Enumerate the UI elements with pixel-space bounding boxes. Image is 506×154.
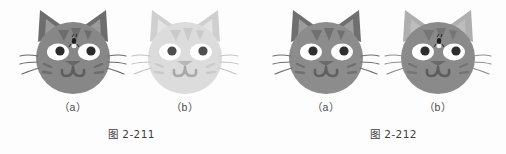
figure-caption-2: 图 2-212 xyxy=(267,126,506,141)
cat-face-illustration-2a xyxy=(271,4,381,98)
cat-face-icon xyxy=(130,4,240,98)
cat-face-illustration-1b xyxy=(130,4,240,98)
sublabel-2b: （b） xyxy=(383,99,493,114)
cat-face-illustration-1a xyxy=(18,4,128,98)
cat-face-icon xyxy=(383,4,493,98)
figure-caption-1: 图 2-211 xyxy=(5,126,258,141)
sublabel-2a: （a） xyxy=(271,99,381,114)
figure-group-2-212: （a） （b） 图 2-212 xyxy=(253,0,506,154)
sublabel-1a: （a） xyxy=(18,99,128,114)
figure-group-2-211: （a） （b） 图 2-211 xyxy=(0,0,253,154)
sublabel-1b: （b） xyxy=(130,99,240,114)
figure-page: （a） （b） 图 2-211 xyxy=(0,0,506,154)
cat-face-icon xyxy=(18,4,128,98)
cat-face-icon xyxy=(271,4,381,98)
cat-face-illustration-2b xyxy=(383,4,493,98)
